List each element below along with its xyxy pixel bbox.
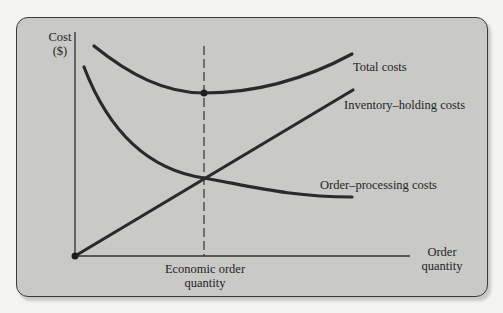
x-label-line1: Order — [410, 245, 474, 259]
legend-holding-costs: Inventory–holding costs — [344, 98, 465, 112]
eoq-label-line1: Economic order — [150, 262, 260, 276]
y-label-line1: Cost — [46, 30, 74, 44]
x-axis-label: Order quantity — [410, 245, 474, 273]
legend-ordering-costs: Order–processing costs — [320, 178, 437, 192]
y-label-line2: ($) — [46, 44, 74, 58]
total-min-dot — [201, 90, 208, 97]
eoq-label: Economic order quantity — [150, 262, 260, 290]
ordering-costs-curve — [84, 67, 352, 197]
y-axis-label: Cost ($) — [46, 30, 74, 58]
holding-costs-line — [75, 90, 353, 256]
total-costs-curve — [94, 46, 352, 93]
origin-dot — [72, 253, 79, 260]
eoq-label-line2: quantity — [150, 276, 260, 290]
x-label-line2: quantity — [410, 259, 474, 273]
legend-total-costs: Total costs — [353, 60, 407, 74]
